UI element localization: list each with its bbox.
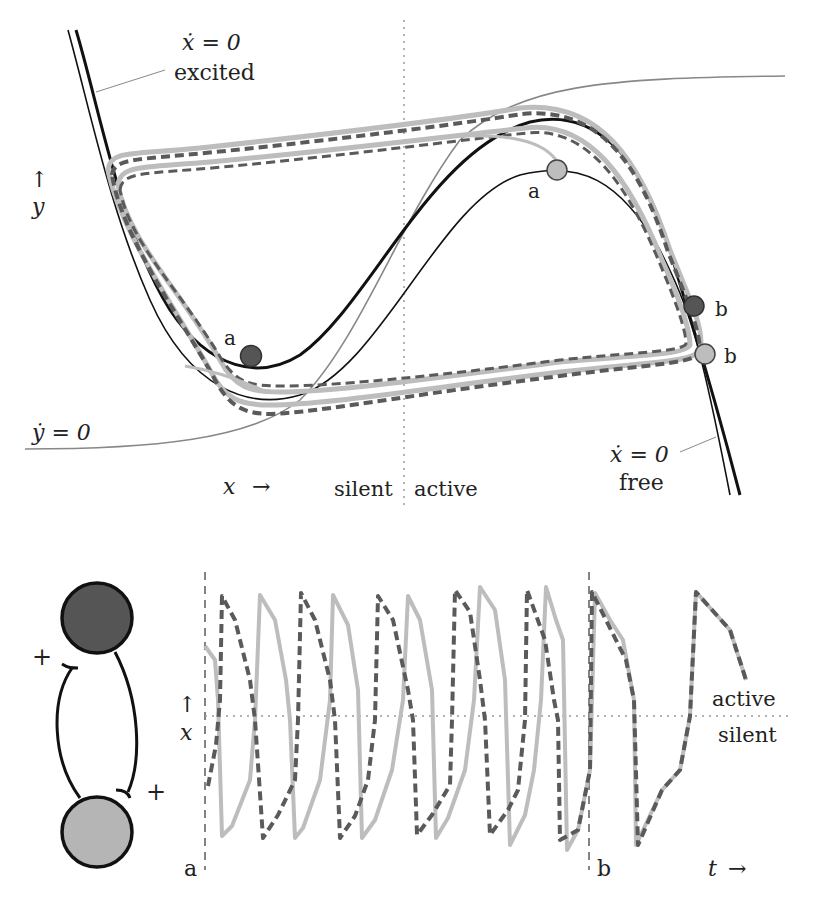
synapse-dark-to-light bbox=[115, 652, 137, 792]
point-b-dark-label: b bbox=[715, 297, 728, 321]
excited-leader bbox=[96, 70, 165, 92]
phase-plane-diagram: a a b b ẋ = 0 excited ẋ = 0 free ẏ = 0 ↑… bbox=[0, 0, 821, 905]
point-a-dark bbox=[241, 346, 262, 367]
marker-a-label: a bbox=[184, 856, 197, 881]
x-axis-arrow-trace: ↑ bbox=[178, 692, 196, 717]
t-axis-arrow: → bbox=[728, 856, 746, 881]
xdot-excited-eq: ẋ = 0 bbox=[182, 30, 241, 55]
active-label: active bbox=[414, 477, 478, 501]
dark-cell-node bbox=[62, 583, 132, 653]
xdot-free-eq: ẋ = 0 bbox=[610, 442, 669, 467]
silent-label: silent bbox=[334, 477, 393, 501]
free-leader bbox=[680, 437, 716, 452]
point-a-light bbox=[547, 160, 567, 180]
synapse-terminal-top bbox=[62, 664, 78, 668]
point-b-dark bbox=[684, 296, 704, 316]
y-axis-arrow: ↑ bbox=[30, 167, 48, 192]
point-b-light-label: b bbox=[724, 344, 737, 368]
x-axis-label-trace: x bbox=[180, 720, 193, 745]
active-label-trace: active bbox=[712, 687, 776, 711]
y-axis-label: y bbox=[31, 194, 45, 219]
light-cell-node bbox=[62, 797, 132, 867]
light-cell-trace bbox=[205, 587, 746, 850]
xdot-free-name: free bbox=[619, 470, 664, 495]
point-a-light-label: a bbox=[528, 179, 540, 203]
marker-b-label: b bbox=[597, 856, 611, 881]
ydot-eq: ẏ = 0 bbox=[31, 420, 91, 445]
x-axis-arrow: → bbox=[252, 474, 270, 499]
x-axis-label: x bbox=[223, 474, 236, 499]
point-b-light bbox=[695, 344, 715, 364]
t-axis-label: t bbox=[708, 856, 717, 881]
xdot-excited-name: excited bbox=[174, 60, 255, 85]
silent-label-trace: silent bbox=[718, 723, 777, 747]
synapse-light-to-dark bbox=[57, 668, 80, 798]
plus-top: + bbox=[32, 643, 52, 671]
point-a-dark-label: a bbox=[224, 326, 236, 350]
plus-bottom: + bbox=[146, 778, 166, 806]
xdot-nullcline-excited bbox=[76, 30, 740, 495]
xdot-nullcline-free bbox=[68, 30, 730, 495]
